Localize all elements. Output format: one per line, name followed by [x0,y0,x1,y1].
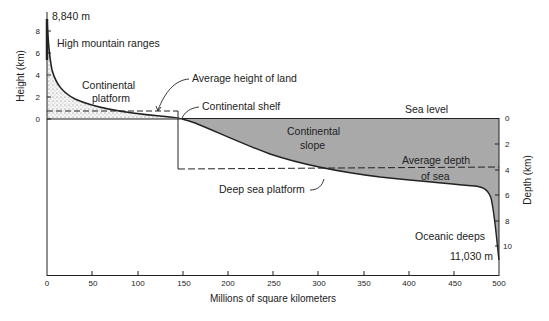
continental-platform-label-1: Continental [82,79,135,91]
continental-shelf-label: Continental shelf [202,100,280,112]
max-depth-label-text: 11,030 m [450,250,493,262]
svg-text:350: 350 [357,279,371,288]
hypsographic-chart: 0 2 4 6 8 0 2 4 6 8 10 0 50 100 150 200 … [0,0,549,321]
svg-text:0: 0 [36,115,41,124]
left-axis-title: Height (km) [15,50,26,102]
land-area [47,20,182,119]
svg-text:400: 400 [402,279,416,288]
svg-text:2: 2 [505,140,510,149]
svg-text:8: 8 [36,27,41,36]
svg-text:4: 4 [36,71,41,80]
right-axis-title: Depth (km) [522,155,533,204]
continental-slope-label-2: slope [300,139,325,151]
svg-text:50: 50 [89,279,98,288]
avg-height-arrow [158,79,189,110]
x-ticks: 0 50 100 150 200 250 300 350 400 450 500 [45,271,506,288]
svg-text:300: 300 [312,279,326,288]
avg-depth-label-2: of sea [421,170,450,182]
deep-sea-platform-label: Deep sea platform [219,183,305,195]
svg-text:0: 0 [505,114,510,123]
svg-text:6: 6 [505,191,510,200]
continental-shelf-arrow [182,107,199,118]
svg-text:0: 0 [45,279,50,288]
svg-text:450: 450 [448,279,462,288]
sea-level-label: Sea level [405,103,448,115]
oceanic-deeps-label: Oceanic deeps [415,230,485,242]
deep-sea-platform-arrow [310,179,324,190]
svg-text:150: 150 [177,279,191,288]
svg-text:250: 250 [267,279,281,288]
svg-text:500: 500 [492,279,506,288]
max-height-label: 8,840 m [52,10,90,22]
svg-text:10: 10 [503,242,512,251]
continental-slope-label-1: Continental [287,125,340,137]
high-mountains-label: High mountain ranges [57,37,160,49]
svg-text:100: 100 [131,279,145,288]
x-axis-title: Millions of square kilometers [210,293,336,304]
avg-height-label: Average height of land [192,72,297,84]
svg-text:4: 4 [505,166,510,175]
svg-text:200: 200 [221,279,235,288]
continental-platform-label-2: platform [92,92,130,104]
svg-text:2: 2 [36,93,41,102]
avg-depth-label-1: Average depth [402,154,470,166]
svg-text:8: 8 [505,217,510,226]
svg-text:6: 6 [36,49,41,58]
